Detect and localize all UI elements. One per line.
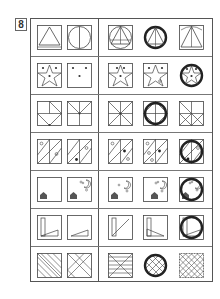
option-c-figure-ringed[interactable] (179, 139, 204, 164)
option-b-figure[interactable] (143, 139, 168, 164)
option-b-figure-ringed[interactable] (143, 25, 168, 50)
option-a-figure[interactable] (108, 25, 133, 50)
option-b-figure-ringed[interactable] (143, 253, 168, 278)
house-moon-stars-figure (67, 177, 92, 202)
rectangle-triangle-figure (37, 215, 62, 240)
puzzle-row-4 (31, 133, 212, 171)
triangle-in-square-figure (37, 25, 62, 50)
puzzle-row-1 (31, 19, 212, 57)
option-a-figure[interactable] (108, 63, 133, 88)
option-b-figure-ringed[interactable] (143, 101, 168, 126)
option-a-figure[interactable] (108, 101, 133, 126)
option-c-figure[interactable] (179, 253, 204, 278)
cross-diagonal-figure (37, 101, 62, 126)
option-a-figure[interactable] (108, 139, 133, 164)
puzzle-row-3 (31, 95, 212, 133)
option-c-figure[interactable] (179, 101, 204, 126)
question-number: 8 (15, 18, 27, 31)
puzzle-row-5 (31, 171, 212, 209)
stripes-circle-dot-figure (67, 139, 92, 164)
option-c-figure-ringed[interactable] (179, 177, 204, 202)
option-b-figure[interactable] (143, 215, 168, 240)
option-c-figure-ringed[interactable] (179, 63, 204, 88)
puzzle-row-7 (31, 247, 212, 283)
cross-v-figure (67, 101, 92, 126)
circle-vertical-line-figure (67, 25, 92, 50)
puzzle-row-6 (31, 209, 212, 247)
three-dots-figure (67, 63, 92, 88)
small-triangle-figure (67, 215, 92, 240)
option-a-figure[interactable] (108, 177, 133, 202)
option-c-figure[interactable] (179, 25, 204, 50)
puzzle-row-2 (31, 57, 212, 95)
option-a-figure[interactable] (108, 215, 133, 240)
stripes-two-circles-figure (37, 139, 62, 164)
star-dots-figure (37, 63, 62, 88)
option-c-figure-ringed[interactable] (179, 215, 204, 240)
x-lines-figure (67, 253, 92, 278)
puzzle-sheet (30, 18, 213, 282)
house-figure (37, 177, 62, 202)
option-a-figure[interactable] (108, 253, 133, 278)
option-b-figure[interactable] (143, 63, 168, 88)
option-b-figure[interactable] (143, 177, 168, 202)
diagonal-hatch-figure (37, 253, 62, 278)
